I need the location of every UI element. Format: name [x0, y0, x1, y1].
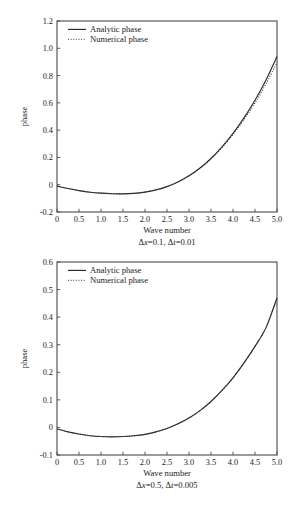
chart-bottom-svg: 00.51.01.52.02.53.03.54.04.55.00.60.50.4… [0, 256, 296, 509]
x-tick-label: 0 [55, 215, 59, 224]
x-tick-label: 4.0 [228, 458, 238, 467]
x-tick-label: 2.0 [140, 215, 150, 224]
chart-caption: Δx=0.1, Δt=0.01 [138, 237, 195, 247]
x-tick-label: 1.0 [96, 458, 106, 467]
caption-dx-value: =0.5, [146, 480, 166, 490]
y-tick-label: 0.5 [43, 286, 53, 295]
y-tick-label: 0.6 [43, 99, 53, 108]
x-axis-title: Wave number [143, 468, 191, 478]
curve-numerical-phase [57, 63, 277, 194]
chart-bottom: 00.51.01.52.02.53.03.54.04.55.00.60.50.4… [0, 256, 296, 509]
y-tick-label: 0.6 [43, 258, 53, 267]
x-tick-label: 4.5 [250, 458, 260, 467]
x-tick-label: 4.5 [250, 215, 260, 224]
x-tick-label: 0.5 [74, 458, 84, 467]
caption-dt-value: =0.01 [176, 237, 196, 247]
y-axis-title: phase [19, 107, 29, 127]
legend-label-analytic: Analytic phase [90, 24, 141, 34]
y-tick-label: 0.4 [43, 313, 54, 322]
y-tick-label: -0.2 [40, 208, 53, 217]
chart-top: 00.51.01.52.02.53.03.54.04.55.01.21.00.8… [0, 0, 296, 256]
legend-label-numerical: Numerical phase [90, 275, 148, 285]
x-tick-label: 1.0 [96, 215, 106, 224]
legend-label-numerical: Numerical phase [90, 34, 148, 44]
y-tick-label: 0.8 [43, 72, 53, 81]
x-tick-label: 3.0 [184, 215, 194, 224]
chart-top-svg: 00.51.01.52.02.53.03.54.04.55.01.21.00.8… [0, 0, 296, 256]
x-axis-title: Wave number [143, 225, 191, 235]
x-tick-label: 2.5 [162, 215, 172, 224]
y-tick-label: -0.1 [40, 451, 53, 460]
plot-frame [57, 21, 277, 212]
legend-label-analytic: Analytic phase [90, 265, 141, 275]
y-tick-label: 0.2 [43, 153, 53, 162]
x-tick-label: 2.5 [162, 458, 172, 467]
curve-analytic-phase [57, 56, 277, 193]
y-tick-label: 0.2 [43, 368, 53, 377]
x-tick-label: 1.5 [118, 215, 128, 224]
caption-dx-value: =0.1, [148, 237, 168, 247]
y-tick-label: 0 [49, 181, 53, 190]
y-tick-label: 0.1 [43, 396, 53, 405]
y-axis-title: phase [19, 349, 29, 369]
x-tick-label: 3.5 [206, 215, 216, 224]
x-tick-label: 3.5 [206, 458, 216, 467]
x-tick-label: 5.0 [272, 215, 282, 224]
x-tick-label: 5.0 [272, 458, 282, 467]
x-tick-label: 4.0 [228, 215, 238, 224]
x-tick-label: 3.0 [184, 458, 194, 467]
curve-analytic-phase [57, 298, 277, 437]
y-tick-label: 0.3 [43, 341, 53, 350]
x-tick-label: 0 [55, 458, 59, 467]
caption-dt-value: =0.005 [173, 480, 197, 490]
plot-frame [57, 262, 277, 455]
x-tick-label: 0.5 [74, 215, 84, 224]
y-tick-label: 0.4 [43, 126, 54, 135]
y-tick-label: 1.0 [43, 44, 53, 53]
y-tick-label: 0 [49, 423, 53, 432]
y-tick-label: 1.2 [43, 17, 53, 26]
x-tick-label: 2.0 [140, 458, 150, 467]
curve-numerical-phase [57, 298, 277, 436]
x-tick-label: 1.5 [118, 458, 128, 467]
chart-caption: Δx=0.5, Δt=0.005 [136, 480, 197, 490]
